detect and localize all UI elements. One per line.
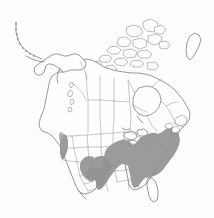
- distribution-map-figure: [0, 0, 214, 218]
- north-america-map: [0, 0, 214, 218]
- range-southern-plains-spot: [85, 168, 105, 180]
